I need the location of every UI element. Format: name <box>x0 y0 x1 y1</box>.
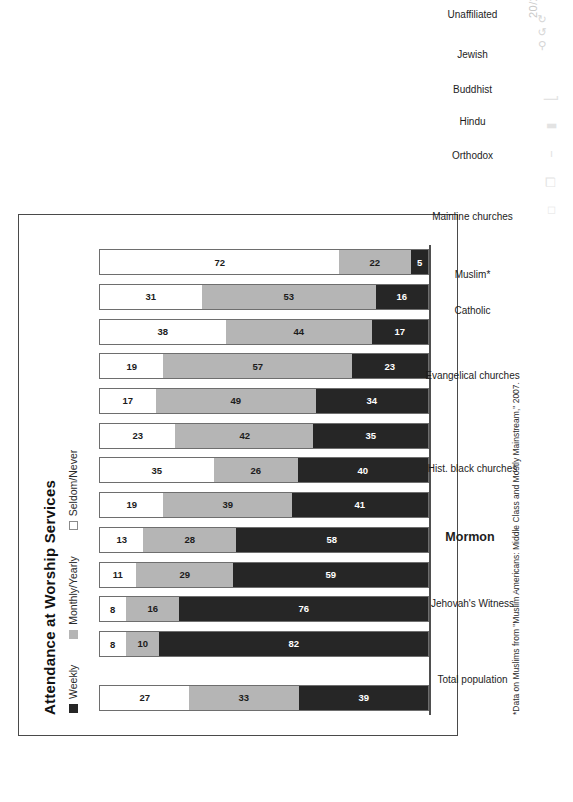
stacked-bar[interactable]: 52272 <box>99 249 429 275</box>
bar-segment: 28 <box>143 528 236 552</box>
bar-value-label: 40 <box>358 466 369 476</box>
bar-segment: 39 <box>299 686 428 710</box>
rotate-cw-icon[interactable]: ↺ <box>537 27 546 38</box>
category-label-text: Total population <box>437 674 507 685</box>
bar-group: 174438 <box>99 314 429 349</box>
bar-group: 582813 <box>99 522 429 557</box>
page-indicator: 20/26 <box>527 0 573 18</box>
bar-value-label: 38 <box>158 327 169 337</box>
bar-segment: 29 <box>136 563 232 587</box>
legend-item-seldom-never: Seldom/Never <box>67 450 79 531</box>
bar-group: 82108 <box>99 627 429 662</box>
bar-group: 52272 <box>99 245 429 280</box>
bar-value-label: 42 <box>239 431 250 441</box>
bar-segment: 49 <box>156 389 317 413</box>
zoom-out-icon[interactable]: ⚲ <box>538 40 546 51</box>
bar-value-label: 35 <box>152 466 163 476</box>
bar-value-label: 44 <box>293 327 304 337</box>
bar-segment: 31 <box>100 285 202 309</box>
bar-value-label: 22 <box>370 258 381 268</box>
bar-group: 413919 <box>99 488 429 523</box>
bar-segment: 35 <box>100 458 214 482</box>
stacked-bar[interactable]: 582813 <box>99 527 429 553</box>
bar-segment: 58 <box>236 528 428 552</box>
bar-value-label: 82 <box>288 639 299 649</box>
category-label: Catholic <box>433 292 478 328</box>
bar-group: 592911 <box>99 557 429 592</box>
bar-segment: 8 <box>100 632 126 656</box>
legend-label-monthly-yearly: Monthly/Yearly <box>67 556 79 624</box>
category-label-text: Buddhist <box>453 84 492 95</box>
bar-segment: 57 <box>163 354 352 378</box>
stamp-icon[interactable]: ▮ <box>545 123 557 130</box>
category-labels: Total populationJehovah's WitnessMormonH… <box>433 245 523 715</box>
category-label-text: Orthodox <box>452 150 493 161</box>
category-label-text: Mainline churches <box>432 211 513 222</box>
bar-segment: 39 <box>163 493 292 517</box>
bar-segment: 16 <box>126 597 178 621</box>
viewer-toolbar[interactable]: ⎣ ▮ ⎯ ❐ □ <box>531 92 571 216</box>
category-label: Hindu <box>433 109 478 135</box>
chart-legend: Weekly Monthly/Yearly Seldom/Never <box>67 450 79 713</box>
category-label-text: Catholic <box>454 305 490 316</box>
category-label: Mormon <box>433 513 477 562</box>
bar-value-label: 58 <box>327 535 338 545</box>
bar-segment: 19 <box>100 354 163 378</box>
legend-item-monthly-yearly: Monthly/Yearly <box>67 556 79 638</box>
bar-segment: 35 <box>313 424 428 448</box>
stacked-bar[interactable]: 413919 <box>99 492 429 518</box>
bar-segment: 76 <box>179 597 428 621</box>
stacked-bar[interactable]: 393327 <box>99 685 429 711</box>
bar-value-label: 19 <box>126 500 137 510</box>
stacked-bar[interactable]: 82108 <box>99 631 429 657</box>
stacked-bar[interactable]: 235719 <box>99 353 429 379</box>
category-label-text: Jehovah's Witness <box>431 598 514 609</box>
bar-segment: 22 <box>339 250 412 274</box>
text-icon[interactable]: ⎯ <box>545 151 557 157</box>
stacked-bar[interactable]: 592911 <box>99 562 429 588</box>
bar-group: 354223 <box>99 418 429 453</box>
category-label: Hist. black churches <box>433 423 478 512</box>
bar-segment: 23 <box>100 424 175 448</box>
category-label-text: Muslim* <box>455 269 491 280</box>
legend-label-seldom-never: Seldom/Never <box>67 450 79 517</box>
signature-icon[interactable]: ⎣ <box>545 95 557 101</box>
bar-value-label: 5 <box>417 258 422 268</box>
bar-group: 165331 <box>99 280 429 315</box>
stacked-bar[interactable]: 165331 <box>99 284 429 310</box>
rotated-content-layer: Attendance at Worship Services Weekly Mo… <box>19 215 459 737</box>
bar-value-label: 57 <box>252 362 263 372</box>
category-label-text: Mormon <box>445 530 494 544</box>
stacked-bar[interactable]: 344917 <box>99 388 429 414</box>
bar-value-label: 8 <box>110 604 115 614</box>
category-label-text: Hindu <box>459 117 485 128</box>
stacked-bar[interactable]: 174438 <box>99 319 429 345</box>
bar-value-label: 28 <box>184 535 195 545</box>
bar-value-label: 53 <box>283 292 294 302</box>
bar-segment: 17 <box>372 320 428 344</box>
bar-value-label: 17 <box>123 396 134 406</box>
bar-segment: 59 <box>233 563 428 587</box>
category-label: Evangelical churches <box>433 329 478 424</box>
bar-segment: 13 <box>100 528 143 552</box>
viewer-icon-group[interactable]: ↻ ↺ ⚲ <box>520 14 564 51</box>
chart-footnote: *Data on Muslims from "Muslim Americans:… <box>511 382 521 715</box>
category-label: Mainline churches <box>433 176 478 257</box>
bar-group: 393327 <box>99 680 429 715</box>
bar-group: 235719 <box>99 349 429 384</box>
rectangle-icon[interactable]: □ <box>545 206 557 213</box>
bar-value-label: 34 <box>367 396 378 406</box>
bar-segment: 82 <box>159 632 428 656</box>
bar-group: 402635 <box>99 453 429 488</box>
copy-icon[interactable]: ❐ <box>545 177 557 188</box>
bar-value-label: 76 <box>298 604 309 614</box>
bar-group: 76168 <box>99 592 429 627</box>
stacked-bar[interactable]: 354223 <box>99 423 429 449</box>
category-label: Buddhist <box>433 70 478 109</box>
stacked-bar[interactable]: 76168 <box>99 596 429 622</box>
bar-segment: 40 <box>298 458 428 482</box>
stacked-bar[interactable]: 402635 <box>99 457 429 483</box>
legend-swatch-weekly <box>69 704 78 713</box>
bar-segment: 42 <box>175 424 313 448</box>
bar-value-label: 23 <box>385 362 396 372</box>
